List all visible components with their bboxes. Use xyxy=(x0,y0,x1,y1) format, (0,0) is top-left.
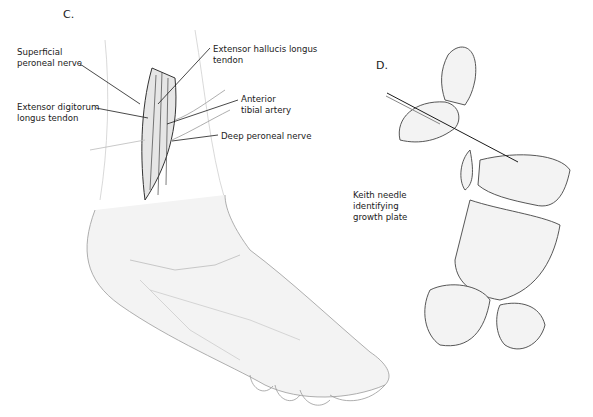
label-anterior-tibial-artery: Anterior tibial artery xyxy=(241,94,291,116)
panel-label-c: C. xyxy=(63,8,74,21)
label-deep-peroneal-nerve: Deep peroneal nerve xyxy=(221,131,311,142)
bones-drawing-panel-d xyxy=(399,47,570,349)
label-keith-needle: Keith needle identifying growth plate xyxy=(353,190,407,223)
label-superficial-peroneal-nerve: Superficial peroneal nerve xyxy=(17,47,82,69)
label-extensor-digitorum-longus-tendon: Extensor digitorum longus tendon xyxy=(17,102,99,124)
foot-drawing-panel-c xyxy=(87,30,389,405)
panel-label-d: D. xyxy=(376,59,388,72)
label-extensor-hallucis-longus-tendon: Extensor hallucis longus tendon xyxy=(213,44,317,66)
